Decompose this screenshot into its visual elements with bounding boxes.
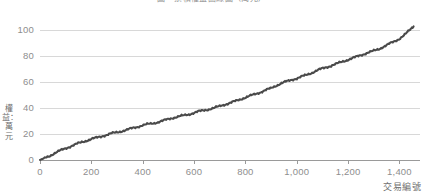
x-tick-label: 1,400: [379, 166, 419, 177]
x-tick-label: 800: [225, 166, 265, 177]
y-tick-label: 60: [8, 76, 34, 87]
equity-curve-chart: 圖 累積權益曲線圖（萬元） 權益：萬元 交易編號 020406080100 02…: [0, 0, 424, 195]
x-tick-label: 1,200: [328, 166, 368, 177]
x-tick-label: 0: [20, 166, 60, 177]
x-tick-label: 200: [71, 166, 111, 177]
gridlines: [40, 31, 420, 135]
x-tick-label: 400: [123, 166, 163, 177]
series-line-cumulative-equity: [40, 26, 414, 159]
y-tick-label: 80: [8, 50, 34, 61]
y-tick-label: 40: [8, 102, 34, 113]
x-tick-label: 1,000: [277, 166, 317, 177]
x-tick-label: 600: [174, 166, 214, 177]
y-tick-label: 100: [8, 24, 34, 35]
y-tick-label: 0: [8, 154, 34, 165]
y-tick-label: 20: [8, 128, 34, 139]
